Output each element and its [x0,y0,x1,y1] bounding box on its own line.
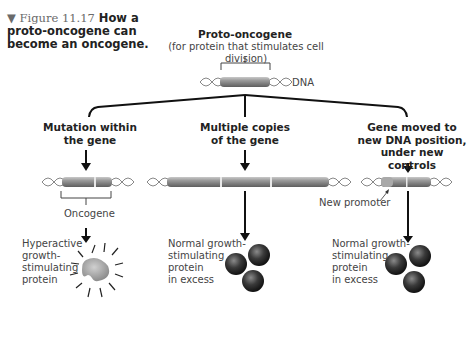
gene-copies-segment [167,177,329,187]
oncogene-label: Oncogene [64,208,110,220]
branch-1-heading: Mutation within the gene [40,121,140,146]
branch-3-heading: Gene moved to new DNA position, under ne… [356,121,468,171]
branch-2-heading: Multiple copies of the gene [195,121,295,146]
new-promoter-label: New promoter [319,197,390,209]
hyperactive-protein-label: Hyperactive growth- stimulating protein [22,238,82,286]
figure-number: ▼ Figure 11.17 [7,11,95,25]
excess-protein-label-1: Normal growth- stimulating protein in ex… [168,238,246,286]
figure-caption: ▼ Figure 11.17 How a proto-oncogene can … [7,12,157,51]
proto-oncogene-title: Proto-oncogene [195,28,295,41]
dna-label: DNA [292,77,314,89]
proto-oncogene-subtitle: (for protein that stimulates cell divisi… [160,41,332,65]
branch-lines [89,95,407,117]
oncogene-segment [62,177,112,187]
excess-protein-label-2: Normal growth- stimulating protein in ex… [332,238,410,286]
top-gene [220,77,270,87]
